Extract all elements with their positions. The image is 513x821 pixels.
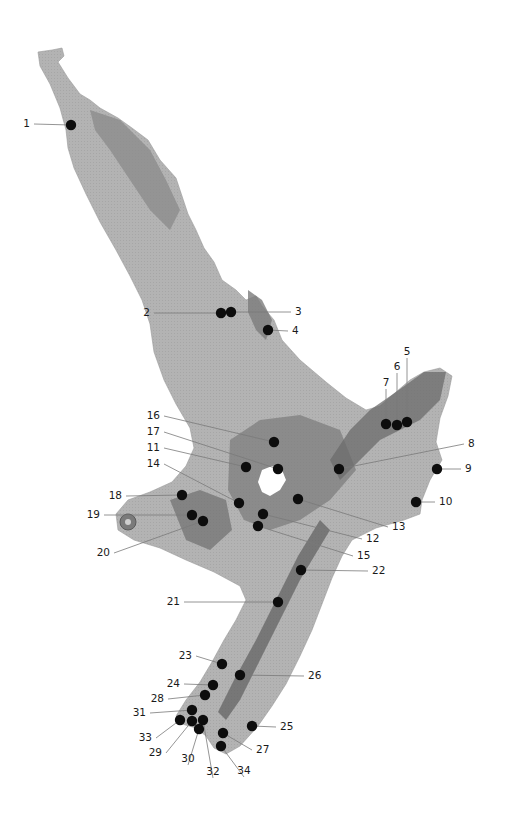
marker-label: 29: [149, 746, 162, 758]
marker-label: 6: [394, 360, 401, 372]
location-marker-33: 33: [139, 715, 186, 743]
marker-dot: [273, 464, 283, 474]
marker-dot: [217, 659, 227, 669]
marker-label: 4: [292, 324, 299, 336]
marker-dot: [234, 498, 244, 508]
marker-dot: [334, 464, 344, 474]
marker-dot: [263, 325, 273, 335]
marker-dot: [198, 715, 208, 725]
marker-label: 20: [97, 546, 110, 558]
location-marker-4: 4: [263, 324, 299, 336]
marker-dot: [187, 705, 197, 715]
marker-dot: [218, 728, 228, 738]
marker-dot: [392, 420, 402, 430]
marker-dot: [247, 721, 257, 731]
marker-dot: [253, 521, 263, 531]
marker-label: 28: [151, 692, 164, 704]
marker-dot: [187, 716, 197, 726]
marker-label: 13: [392, 520, 405, 532]
marker-label: 8: [468, 437, 475, 449]
marker-dot: [216, 308, 226, 318]
marker-label: 3: [295, 305, 302, 317]
marker-dot: [200, 690, 210, 700]
marker-label: 12: [366, 532, 379, 544]
marker-label: 10: [439, 495, 452, 507]
marker-label: 5: [404, 345, 411, 357]
marker-dot: [187, 510, 197, 520]
marker-dot: [226, 307, 236, 317]
marker-label: 11: [147, 441, 160, 453]
marker-label: 9: [465, 462, 472, 474]
marker-dot: [235, 670, 245, 680]
marker-dot: [432, 464, 442, 474]
marker-dot: [198, 516, 208, 526]
mount-taranaki-peak: [125, 519, 131, 525]
marker-label: 31: [133, 706, 146, 718]
marker-dot: [293, 494, 303, 504]
marker-dot: [258, 509, 268, 519]
marker-label: 7: [383, 376, 390, 388]
marker-label: 23: [179, 649, 192, 661]
marker-dot: [241, 462, 251, 472]
location-marker-25: 25: [247, 720, 294, 732]
marker-label: 18: [109, 489, 122, 501]
marker-label: 32: [206, 765, 219, 777]
marker-dot: [175, 715, 185, 725]
north-island-map: 1234567891011121314151617181920212223242…: [0, 0, 513, 821]
marker-label: 27: [256, 743, 269, 755]
marker-label: 1: [23, 117, 30, 129]
marker-dot: [177, 490, 187, 500]
marker-dot: [269, 437, 279, 447]
marker-dot: [208, 680, 218, 690]
marker-label: 19: [87, 508, 100, 520]
marker-label: 25: [280, 720, 293, 732]
marker-dot: [66, 120, 76, 130]
marker-label: 14: [147, 457, 161, 469]
marker-dot: [296, 565, 306, 575]
marker-label: 17: [147, 425, 160, 437]
marker-label: 22: [372, 564, 385, 576]
leader-line: [166, 721, 192, 753]
marker-dot: [381, 419, 391, 429]
marker-label: 24: [167, 677, 181, 689]
marker-label: 2: [143, 306, 150, 318]
marker-label: 30: [181, 752, 194, 764]
marker-dot: [402, 417, 412, 427]
marker-dot: [194, 724, 204, 734]
marker-label: 26: [308, 669, 322, 681]
marker-label: 15: [357, 549, 370, 561]
marker-label: 21: [167, 595, 180, 607]
marker-dot: [411, 497, 421, 507]
marker-label: 34: [237, 764, 251, 776]
marker-label: 33: [139, 731, 152, 743]
marker-label: 16: [147, 409, 161, 421]
marker-dot: [273, 597, 283, 607]
marker-dot: [216, 741, 226, 751]
